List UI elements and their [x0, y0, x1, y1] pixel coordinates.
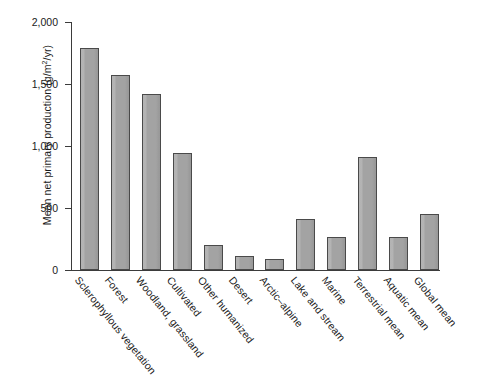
y-axis-tick [65, 270, 72, 271]
x-axis-label: Marine [319, 274, 349, 307]
bar [204, 245, 223, 270]
y-axis-tick [65, 22, 72, 23]
y-axis-tick-label: 2,000 [32, 16, 61, 28]
bar [389, 237, 408, 270]
bar [173, 153, 192, 270]
y-axis-tick [65, 146, 72, 147]
y-axis-tick [65, 208, 72, 209]
bar [265, 259, 284, 270]
bar [235, 256, 254, 270]
bars-group [72, 22, 440, 270]
x-axis-label: Other humanized [196, 274, 257, 345]
bar [142, 94, 161, 270]
bar [327, 237, 346, 270]
y-axis-tick-label: 1,500 [32, 78, 61, 90]
bar [358, 157, 377, 270]
x-axis-label: Lake and stream [288, 274, 347, 344]
bar [420, 214, 439, 270]
bar [296, 219, 315, 270]
x-axis-line [71, 270, 440, 271]
x-axis-label: Forest [103, 274, 131, 305]
y-axis-title: Mean net primary production (g/m2/yr) [41, 5, 53, 265]
y-axis-tick-label: 1,000 [32, 140, 61, 152]
y-axis-title-superscript: 2 [41, 60, 48, 64]
y-axis-tick-label: 500 [40, 202, 61, 214]
y-axis-tick-label: 0 [52, 264, 61, 276]
y-axis-tick [65, 84, 72, 85]
x-axis-label: Desert [227, 274, 256, 306]
y-axis-title-tail: /yr) [41, 45, 53, 61]
chart-figure: Mean net primary production (g/m2/yr) 05… [0, 0, 489, 380]
bar [80, 48, 99, 270]
bar [111, 75, 130, 270]
x-axis-labels: Sclerophyllous vegetationForestWoodland,… [72, 274, 489, 380]
